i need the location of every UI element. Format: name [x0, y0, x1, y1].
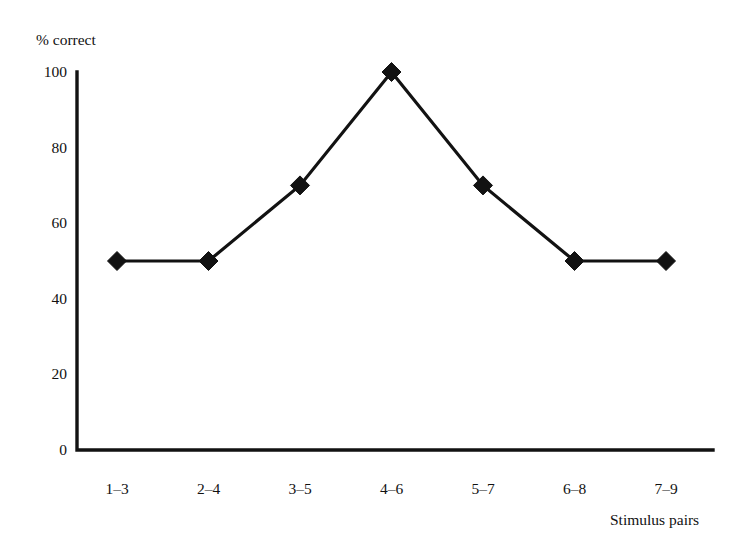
- data-point-marker: [108, 252, 127, 271]
- data-point-marker: [657, 252, 676, 271]
- data-line-series: [117, 72, 666, 261]
- line-chart-figure: % correct Stimulus pairs 020406080100 1–…: [0, 0, 743, 560]
- data-markers: [108, 63, 676, 271]
- plot-area: [0, 0, 743, 560]
